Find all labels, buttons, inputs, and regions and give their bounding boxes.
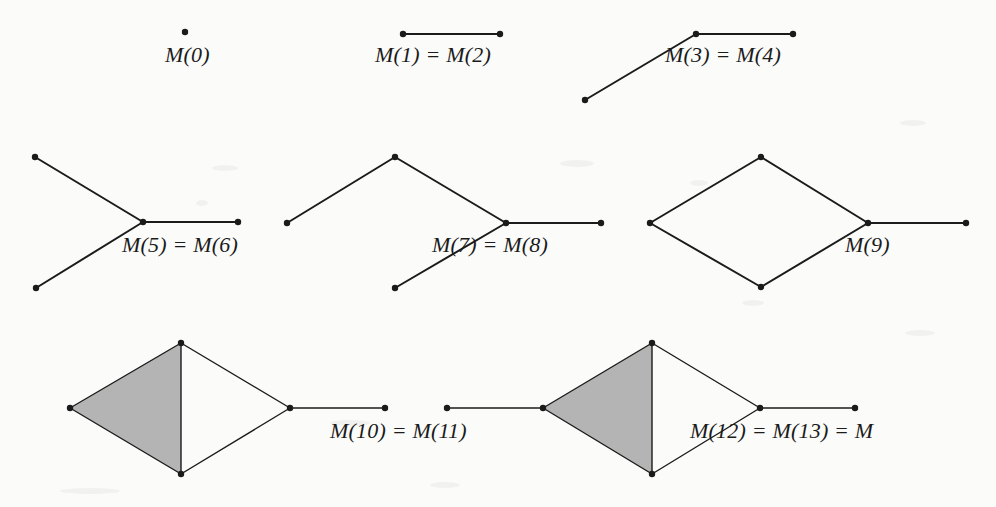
graph-vertex bbox=[178, 471, 184, 477]
graph-figure-m7_m8 bbox=[284, 154, 604, 291]
graph-vertex bbox=[963, 220, 969, 226]
graph-vertex bbox=[392, 154, 398, 160]
graph-edge bbox=[181, 408, 290, 474]
graph-vertex bbox=[540, 405, 546, 411]
graph-vertex bbox=[287, 405, 293, 411]
graph-figure-m12_m13_m bbox=[444, 340, 858, 477]
graph-vertex bbox=[140, 219, 146, 225]
label-m0: M(0) bbox=[165, 42, 210, 68]
shaded-face bbox=[70, 343, 181, 474]
graph-edge bbox=[395, 157, 506, 223]
graph-edge bbox=[761, 157, 868, 223]
graph-vertex bbox=[758, 154, 764, 160]
label-m10-m11: M(10) = M(11) bbox=[330, 418, 467, 444]
graph-vertex bbox=[598, 220, 604, 226]
label-m1-m2: M(1) = M(2) bbox=[375, 42, 491, 68]
graph-vertex bbox=[582, 97, 588, 103]
label-m12-m13-m: M(12) = M(13) = M bbox=[690, 418, 873, 444]
graph-edge bbox=[181, 343, 290, 408]
graph-vertex bbox=[758, 284, 764, 290]
graph-vertex bbox=[497, 31, 503, 37]
graph-figure-m9 bbox=[647, 154, 969, 290]
graph-vertex bbox=[32, 154, 38, 160]
graph-vertex bbox=[67, 405, 73, 411]
graph-vertex bbox=[444, 405, 450, 411]
graph-vertex bbox=[790, 31, 796, 37]
figure-page: M(0) M(1) = M(2) M(3) = M(4) M(5) = M(6)… bbox=[0, 0, 996, 507]
graph-vertex bbox=[178, 340, 184, 346]
graph-edge bbox=[650, 223, 761, 287]
graph-edge bbox=[650, 157, 761, 223]
graph-vertex bbox=[392, 285, 398, 291]
graph-figure-m5_m6 bbox=[32, 154, 241, 291]
graph-vertex bbox=[757, 405, 763, 411]
graph-edge bbox=[35, 157, 143, 222]
graph-figure-m0 bbox=[182, 29, 188, 35]
graph-vertex bbox=[182, 29, 188, 35]
graph-vertex bbox=[400, 31, 406, 37]
shaded-face bbox=[543, 343, 652, 474]
graph-edge bbox=[287, 157, 395, 223]
label-m9: M(9) bbox=[845, 232, 890, 258]
graph-vertex bbox=[382, 405, 388, 411]
graph-vertex bbox=[503, 220, 509, 226]
graph-vertex bbox=[284, 220, 290, 226]
graph-vertex bbox=[33, 285, 39, 291]
graph-vertex bbox=[865, 220, 871, 226]
label-m5-m6: M(5) = M(6) bbox=[122, 232, 238, 258]
graph-vertex bbox=[649, 340, 655, 346]
graph-vertex bbox=[647, 220, 653, 226]
graph-figure-m10_m11 bbox=[67, 340, 388, 477]
graph-edge bbox=[652, 343, 760, 408]
graph-vertex bbox=[693, 31, 699, 37]
label-m7-m8: M(7) = M(8) bbox=[432, 232, 548, 258]
graph-vertex bbox=[649, 471, 655, 477]
graph-vertex bbox=[852, 405, 858, 411]
label-m3-m4: M(3) = M(4) bbox=[665, 42, 781, 68]
graph-figure-m1_m2 bbox=[400, 31, 503, 37]
graph-vertex bbox=[235, 219, 241, 225]
